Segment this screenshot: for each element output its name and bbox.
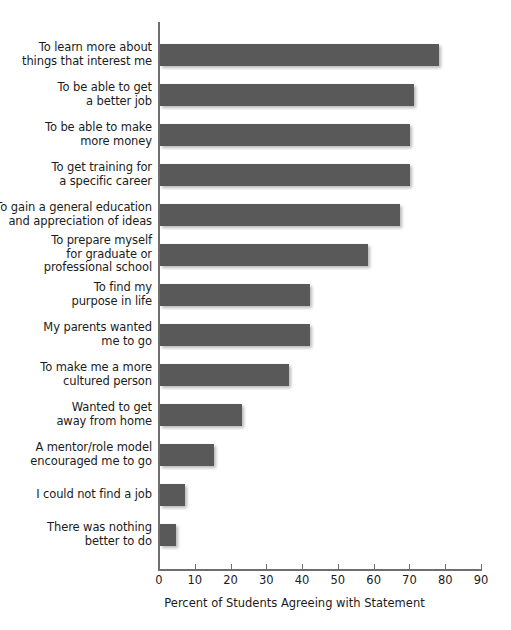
x-axis-tick-label: 40 — [287, 573, 317, 587]
x-axis-tick-label: 50 — [323, 573, 353, 587]
x-axis-tick-mark — [374, 564, 375, 571]
bar — [160, 204, 400, 226]
bar-category-label: To get training for a specific career — [0, 161, 152, 188]
x-axis-tick-mark — [445, 564, 446, 571]
x-axis-tick-mark — [231, 564, 232, 571]
bar-category-label: To make me a more cultured person — [0, 361, 152, 388]
bar — [160, 284, 310, 306]
bar-row: To make me a more cultured person — [0, 364, 511, 386]
bar-chart: To learn more about things that interest… — [0, 0, 511, 630]
bar — [160, 124, 410, 146]
x-axis-tick-label: 10 — [180, 573, 210, 587]
x-axis-tick-mark — [159, 564, 160, 571]
bar-row: To learn more about things that interest… — [0, 44, 511, 66]
bar — [160, 244, 368, 266]
x-axis-tick-mark — [409, 564, 410, 571]
bar-category-label: A mentor/role model encouraged me to go — [0, 441, 152, 468]
bar — [160, 44, 439, 66]
x-axis-tick-label: 60 — [359, 573, 389, 587]
bar-row: To gain a general education and apprecia… — [0, 204, 511, 226]
bar — [160, 324, 310, 346]
x-axis-line — [158, 569, 482, 571]
bar — [160, 164, 410, 186]
x-axis-tick-label: 30 — [251, 573, 281, 587]
bar-row: I could not find a job — [0, 484, 511, 506]
bar — [160, 484, 185, 506]
bar — [160, 364, 289, 386]
x-axis-tick-label: 70 — [394, 573, 424, 587]
bar-category-label: To prepare myself for graduate or profes… — [0, 234, 152, 275]
bar-category-label: I could not find a job — [0, 488, 152, 502]
bar-category-label: To gain a general education and apprecia… — [0, 201, 152, 228]
bar — [160, 404, 242, 426]
bar-category-label: To find my purpose in life — [0, 281, 152, 308]
x-axis-tick-mark — [481, 564, 482, 571]
bar — [160, 84, 414, 106]
bar-row: Wanted to get away from home — [0, 404, 511, 426]
bar-row: To be able to get a better job — [0, 84, 511, 106]
bar-category-label: My parents wanted me to go — [0, 321, 152, 348]
bar-category-label: To be able to make more money — [0, 121, 152, 148]
bar-row: To prepare myself for graduate or profes… — [0, 244, 511, 266]
x-axis-tick-mark — [302, 564, 303, 571]
bar-row: To get training for a specific career — [0, 164, 511, 186]
bar-category-label: Wanted to get away from home — [0, 401, 152, 428]
x-axis-tick-mark — [195, 564, 196, 571]
bar-row: A mentor/role model encouraged me to go — [0, 444, 511, 466]
bar-row: To find my purpose in life — [0, 284, 511, 306]
x-axis-tick-label: 0 — [144, 573, 174, 587]
bar-category-label: There was nothing better to do — [0, 521, 152, 548]
bar — [160, 524, 176, 546]
bar-category-label: To be able to get a better job — [0, 81, 152, 108]
x-axis-tick-label: 80 — [430, 573, 460, 587]
bar-row: My parents wanted me to go — [0, 324, 511, 346]
bar-row: To be able to make more money — [0, 124, 511, 146]
bar-row: There was nothing better to do — [0, 524, 511, 546]
bar-category-label: To learn more about things that interest… — [0, 41, 152, 68]
x-axis-tick-label: 90 — [466, 573, 496, 587]
x-axis-tick-mark — [266, 564, 267, 571]
x-axis-title: Percent of Students Agreeing with Statem… — [0, 596, 511, 610]
bar — [160, 444, 214, 466]
x-axis-tick-label: 20 — [216, 573, 246, 587]
x-axis-tick-mark — [338, 564, 339, 571]
